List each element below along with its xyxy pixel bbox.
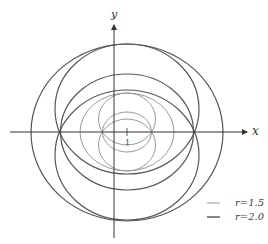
x-axis-label: x [252, 124, 259, 138]
legend: r=1.5 r=2.0 [207, 197, 265, 222]
legend-label-light: r=1.5 [235, 197, 264, 208]
y-axis-label: y [110, 8, 118, 21]
diagram-svg: x y 1 r=1.5 r=2.0 [0, 0, 268, 244]
legend-label-dark: r=2.0 [235, 211, 265, 222]
diagram-canvas: x y 1 r=1.5 r=2.0 [0, 0, 268, 244]
tick-label: 1 [125, 138, 130, 147]
